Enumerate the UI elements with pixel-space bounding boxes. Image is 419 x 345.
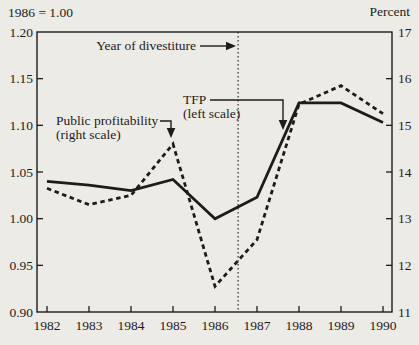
right-axis-tick-label: 16 xyxy=(398,71,412,86)
x-axis-tick-label: 1982 xyxy=(34,318,61,333)
left-axis-tick-label: 0.90 xyxy=(9,305,33,320)
right-axis-tick-label: 14 xyxy=(398,165,412,180)
right-axis-tick-label: 11 xyxy=(398,305,411,320)
x-axis-tick-label: 1988 xyxy=(286,318,313,333)
divestiture-tfp-chart: 1.201.151.101.051.000.950.90171615141312… xyxy=(0,0,419,345)
profitability-arrow-shaft xyxy=(160,121,171,129)
chart-canvas: 1.201.151.101.051.000.950.90171615141312… xyxy=(0,0,419,345)
left-axis-tick-label: 1.10 xyxy=(9,118,33,133)
tfp-series-name: TFP xyxy=(183,92,206,107)
x-axis-tick-label: 1989 xyxy=(328,318,355,333)
x-axis-tick-label: 1983 xyxy=(76,318,103,333)
left-axis-tick-label: 0.95 xyxy=(9,258,33,273)
right-axis-tick-label: 15 xyxy=(398,118,412,133)
profitability-arrow-head xyxy=(167,128,176,138)
left-axis-tick-label: 1.00 xyxy=(9,211,33,226)
plot-border xyxy=(37,32,392,312)
right-axis-tick-label: 13 xyxy=(398,211,412,226)
x-axis-tick-label: 1984 xyxy=(118,318,145,333)
right-axis-tick-label: 12 xyxy=(398,258,412,273)
tfp-series-label: TFP (left scale) xyxy=(183,93,240,121)
left-axis-title: 1986 = 1.00 xyxy=(8,6,73,20)
divestiture-arrow-head xyxy=(226,42,236,51)
right-axis-tick-label: 17 xyxy=(398,25,412,40)
left-axis-tick-label: 1.05 xyxy=(9,165,33,180)
left-axis-tick-label: 1.15 xyxy=(9,71,33,86)
x-axis-tick-label: 1985 xyxy=(160,318,187,333)
profitability-series-label: Public profitability (right scale) xyxy=(56,114,158,142)
x-axis-tick-label: 1990 xyxy=(370,318,397,333)
left-axis-tick-label: 1.20 xyxy=(9,25,33,40)
x-axis-tick-label: 1986 xyxy=(202,318,229,333)
divestiture-annotation-label: Year of divestiture xyxy=(96,39,196,53)
right-axis-title: Percent xyxy=(370,5,410,19)
tfp-arrow-head xyxy=(279,120,288,130)
profitability-series-scale-note: (right scale) xyxy=(56,128,158,142)
profitability-series-name: Public profitability xyxy=(56,113,158,128)
tfp-series-scale-note: (left scale) xyxy=(183,107,240,121)
x-axis-tick-label: 1987 xyxy=(244,318,271,333)
